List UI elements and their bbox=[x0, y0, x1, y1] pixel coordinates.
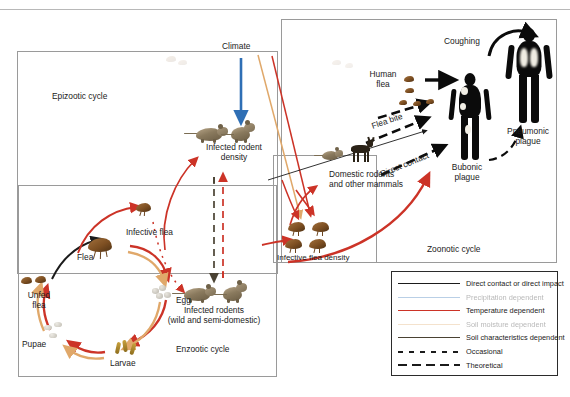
legend-line-swatch bbox=[398, 324, 460, 325]
legend-item-6: Theoretical bbox=[398, 361, 503, 370]
legend-item-4: Soil characteristics dependent bbox=[398, 333, 565, 342]
epizootic-cycle-label: Epizootic cycle bbox=[52, 92, 107, 102]
legend-item-1: Precipitation dependent bbox=[398, 293, 544, 302]
pneumonic-human-figure bbox=[505, 28, 553, 124]
legend-item-3: Soil moisture dependent bbox=[398, 320, 546, 329]
infected-rodents-label: Infected rodents (wild and semi-domestic… bbox=[152, 306, 276, 325]
deer-sprite bbox=[348, 137, 376, 163]
faint-artifact bbox=[178, 60, 187, 65]
flea-sprite bbox=[285, 239, 302, 249]
label-line-2: (wild and semi-domestic) bbox=[152, 316, 276, 326]
flea-sprite bbox=[309, 239, 326, 249]
label-line-2: plague bbox=[437, 173, 497, 183]
legend-line-swatch bbox=[398, 310, 460, 311]
flea-sprite bbox=[88, 238, 112, 252]
human-flea-sprite bbox=[405, 88, 414, 93]
larvae-label: Larvae bbox=[110, 359, 136, 369]
pupae-label: Pupae bbox=[22, 340, 46, 350]
legend-item-label: Temperature dependent bbox=[466, 306, 544, 315]
human-flea-sprite bbox=[426, 99, 434, 104]
faint-artifact bbox=[332, 60, 341, 65]
legend-line-swatch bbox=[398, 364, 460, 366]
lung-marker bbox=[530, 48, 538, 67]
legend-line-swatch bbox=[398, 297, 460, 298]
legend-item-label: Soil moisture dependent bbox=[466, 320, 546, 329]
pneumonic-plague-label: Pneumonic plague bbox=[494, 127, 562, 146]
climate-label: Climate bbox=[222, 42, 250, 52]
human-flea-sprite bbox=[404, 76, 414, 82]
label-line-2: flea bbox=[363, 80, 403, 90]
label-line-2: plague bbox=[494, 137, 562, 147]
label-line-2: flea bbox=[22, 301, 56, 311]
legend-line-swatch bbox=[398, 283, 460, 284]
bubonic-human-figure bbox=[448, 73, 492, 161]
unfed-flea-label: Unfed flea bbox=[22, 291, 56, 310]
legend-item-label: Precipitation dependent bbox=[466, 293, 544, 302]
infective-flea-label: Infective flea bbox=[126, 228, 173, 238]
label-line-2: and other mammals bbox=[329, 180, 403, 190]
flea-sprite bbox=[288, 222, 305, 232]
bubo-marker bbox=[465, 125, 471, 134]
top-divider-rule bbox=[0, 9, 570, 10]
legend-item-2: Temperature dependent bbox=[398, 306, 544, 315]
flea-label: Flea bbox=[77, 253, 93, 263]
legend-item-5: Occasional bbox=[398, 347, 503, 356]
human-flea-sprite bbox=[413, 101, 421, 106]
flea-sprite bbox=[136, 203, 151, 212]
faint-artifact bbox=[166, 56, 176, 62]
flea-sprite bbox=[35, 276, 46, 283]
infective-flea-density-label: Infective flea density bbox=[277, 253, 349, 262]
lung-marker bbox=[520, 48, 528, 67]
faint-artifact bbox=[345, 63, 353, 68]
bubo-marker bbox=[460, 103, 466, 110]
legend-item-label: Soil characteristics dependent bbox=[466, 333, 565, 342]
human-flea-sprite bbox=[399, 100, 407, 105]
infected-rodent-density-label: Infected rodent density bbox=[196, 143, 272, 162]
legend-item-label: Occasional bbox=[466, 347, 503, 356]
legend-line-swatch bbox=[398, 351, 460, 353]
legend-item-label: Direct contact or direct impact bbox=[466, 279, 564, 288]
plague-transmission-diagram: Epizootic cycle Enzootic cycle Zoonotic … bbox=[0, 0, 570, 397]
flea-sprite bbox=[21, 277, 32, 284]
flea-sprite bbox=[312, 222, 329, 232]
zoonotic-cycle-label: Zoonotic cycle bbox=[427, 245, 481, 255]
enzootic-cycle-label: Enzootic cycle bbox=[176, 345, 230, 355]
human-flea-label: Human flea bbox=[363, 70, 403, 89]
coughing-label: Coughing bbox=[444, 37, 480, 47]
label-line-2: density bbox=[196, 153, 272, 163]
legend-item-label: Theoretical bbox=[466, 361, 503, 370]
bubonic-plague-label: Bubonic plague bbox=[437, 163, 497, 182]
legend-line-swatch bbox=[398, 337, 460, 338]
legend-box: Direct contact or direct impactPrecipita… bbox=[391, 271, 558, 376]
legend-item-0: Direct contact or direct impact bbox=[398, 279, 564, 288]
bubo-marker bbox=[461, 87, 468, 95]
